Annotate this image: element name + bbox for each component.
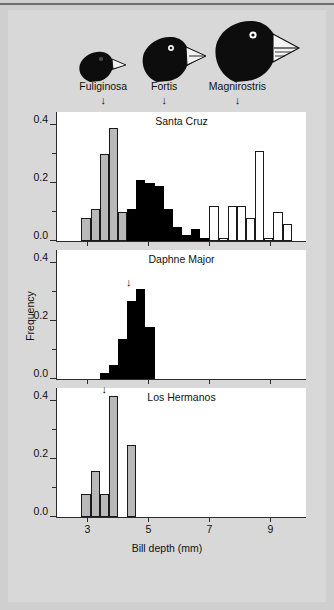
x-tick [270,241,271,246]
bar-magnirostris [228,206,237,241]
magnirostris-marker-arrow: ↓ [217,95,257,106]
bar-fuliginosa [91,471,100,517]
x-tick [148,241,149,246]
panel-daphne-major: Daphne Major ↓0.00.20.4 [56,250,306,380]
x-tick-label: 5 [146,523,152,535]
bird-fortis [139,34,213,82]
bar-magnirostris [219,238,228,241]
bar-fortis [191,229,200,241]
bar-fuliginosa [118,212,127,241]
y-tick-label: 0.2 [33,309,57,321]
bar-magnirostris [273,212,282,241]
bar-fuliginosa [91,209,100,241]
bar-fortis [127,301,136,379]
x-tick [209,241,210,246]
x-tick [148,517,149,522]
bar-fortis [136,289,145,379]
y-tick-label: 0.0 [33,505,57,517]
bar-fuliginosa [100,494,109,517]
y-tick-minor [52,349,57,350]
bar-fortis [182,235,191,241]
bar-fortis [136,180,145,241]
bar-magnirostris [237,206,246,241]
x-tick [87,517,88,522]
y-tick-label: 0.2 [33,447,57,459]
x-tick [209,517,210,522]
y-tick-label: 0.0 [33,367,57,379]
bar-fuliginosa [81,218,90,241]
bar-fuliginosa [127,445,136,517]
bar-fortis [164,209,173,241]
y-tick-minor [52,487,57,488]
x-tick-label: 3 [85,523,91,535]
y-tick-minor [52,429,57,430]
y-tick-label: 0.4 [33,251,57,263]
bar-fuliginosa [109,396,118,517]
bird-magnirostris [211,18,305,82]
plot-area-los-hermanos: ↓0.00.20.43579 [57,388,306,517]
bar-magnirostris [209,206,218,241]
bar-fortis [109,365,118,379]
bar-fortis [155,186,164,241]
mean-bill-depth-arrow: ↓ [126,277,132,288]
x-tick [87,379,88,384]
x-tick [148,379,149,384]
bar-fortis [118,339,127,379]
bar-fortis [100,373,109,379]
bar-fuliginosa [81,494,90,517]
y-tick-minor [52,291,57,292]
bar-fortis [200,238,209,241]
bar-fuliginosa [100,154,109,241]
bird-fuliginosa [76,48,134,82]
panel-los-hermanos: Los Hermanos ↓0.00.20.43579 [56,388,306,518]
bar-fortis [145,327,154,379]
y-tick-label: 0.0 [33,229,57,241]
bar-fuliginosa [109,128,118,241]
magnirostris-marker: Magnirostris [187,80,287,92]
bar-magnirostris [246,218,255,241]
x-tick [270,379,271,384]
species-marker-row: Fuliginosa↓Fortis↓Magnirostris↓ [8,80,326,112]
bar-magnirostris [264,238,273,241]
page-top-rule [0,3,334,5]
y-axis-title: Frequency [24,286,36,346]
bar-magnirostris [255,151,264,241]
fortis-marker-arrow: ↓ [144,95,184,106]
y-tick-label: 0.2 [33,171,57,183]
plot-area-daphne-major: ↓0.00.20.4 [57,250,306,379]
bar-fortis [145,183,154,241]
x-axis-title: Bill depth (mm) [8,542,326,554]
y-tick-minor [52,211,57,212]
bird-illustrations-row [8,10,326,82]
y-tick-label: 0.4 [33,389,57,401]
bar-fortis [173,227,182,241]
bar-magnirostris [283,224,292,241]
x-tick [87,241,88,246]
x-tick [209,379,210,384]
bar-fortis [127,209,136,241]
y-tick-label: 0.4 [33,113,57,125]
mean-bill-depth-arrow: ↓ [102,384,108,395]
plot-area-santa-cruz: 0.00.20.4 [57,112,306,241]
panel-santa-cruz: Santa Cruz 0.00.20.4 [56,112,306,242]
x-tick-label: 7 [207,523,213,535]
y-tick-minor [52,153,57,154]
fuliginosa-marker-arrow: ↓ [83,95,123,106]
x-tick-label: 9 [267,523,273,535]
figure-panel: Fuliginosa↓Fortis↓Magnirostris↓ Santa Cr… [8,10,326,602]
x-tick [270,517,271,522]
